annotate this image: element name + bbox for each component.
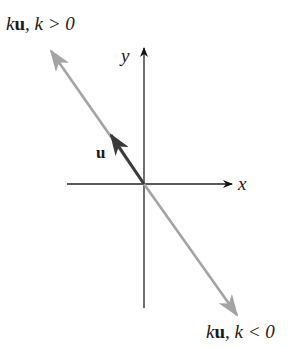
vector-diagram	[0, 0, 301, 348]
vector-u	[111, 135, 144, 184]
label-u: u	[96, 144, 105, 161]
label-ku-negative: ku, k < 0	[206, 322, 275, 341]
y-axis-label: y	[121, 46, 129, 65]
label-ku-positive: ku, k > 0	[6, 14, 75, 33]
x-axis-label: x	[238, 174, 246, 193]
vector-ku-negative	[144, 184, 237, 315]
